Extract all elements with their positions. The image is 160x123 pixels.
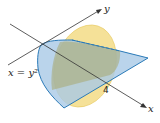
tick-label: 4: [103, 85, 109, 95]
y-label: y: [103, 3, 110, 14]
curve-label: x = y²: [8, 67, 38, 78]
y-arrow-icon: [96, 9, 102, 14]
diagram-canvas: y x x = y² 4: [0, 0, 160, 123]
x-label: x: [148, 103, 154, 114]
